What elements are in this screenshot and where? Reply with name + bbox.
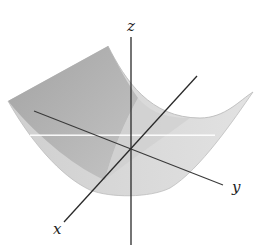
y-axis-label: y: [231, 178, 241, 196]
parabolic-cylinder-diagram: z x y: [0, 0, 268, 245]
z-axis-label: z: [126, 17, 135, 35]
x-axis-label: x: [53, 220, 62, 238]
white-stripe: [30, 135, 215, 136]
